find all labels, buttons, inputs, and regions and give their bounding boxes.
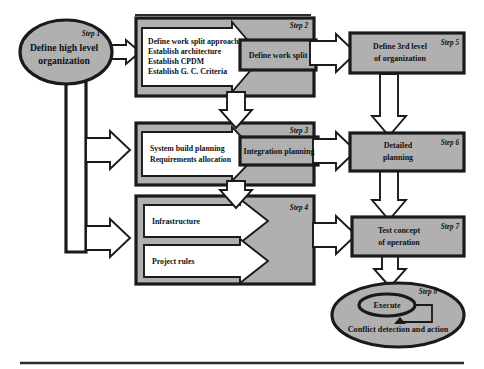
step1-label-line1: Define high level [30,42,99,53]
step1-step-label: Step 1 [82,30,100,38]
step3-step-label: Step 3 [290,127,309,135]
step8-inner-label: Execute [373,301,401,310]
step2-arrow-line-1: Define work split approach [148,37,239,46]
connector-bus-to-step4 [86,219,130,257]
step8-caption: Conflict detection and action [348,325,449,334]
step2-arrow-line-2: Establish architecture [148,47,222,56]
process-diagram: Step 1 Define high level organization St… [0,0,484,369]
connector-step1-trunk [66,70,86,252]
step6-label-line2: planning [383,153,413,162]
step7-step-label: Step 7 [441,223,460,231]
step7-label-line1: Test concept [378,226,420,235]
step3-arrow-line-2: Requirements allocation [150,155,232,164]
connector-step4-to-step7 [313,216,356,254]
step1-label-line2: organization [38,55,90,66]
connector-bus-to-step3 [86,131,130,169]
connector-step5-to-step6 [372,74,406,136]
step8-step-label: Step 8 [419,288,438,296]
step5-label-line2: of organization [374,54,426,63]
step3-result-label: Integration planning [244,147,315,156]
step4-step-label: Step 4 [290,204,309,212]
step3-arrow-line-1: System build planning [150,144,225,153]
step4-arrow-line-2: Project rules [152,257,195,266]
step7-label-line2: of operation [378,238,420,247]
step2-result-label: Define work split [249,51,308,60]
node-step8 [332,283,464,347]
step6-label-line1: Detailed [384,141,413,150]
step2-arrow-line-4: Establish G. C. Criteria [148,67,227,76]
diagram-canvas: Step 1 Define high level organization St… [0,0,484,369]
step2-arrow-line-3: Establish CPDM [148,57,205,66]
step5-step-label: Step 5 [441,39,460,47]
step6-step-label: Step 6 [441,139,460,147]
step4-arrow-line-1: Infrastructure [152,217,200,226]
step5-label-line1: Define 3rd level [373,42,428,51]
step2-step-label: Step 2 [290,22,309,30]
node-step4 [136,196,314,284]
connector-step6-to-step7 [372,171,406,220]
